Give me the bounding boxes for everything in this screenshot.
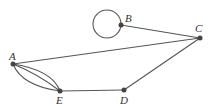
edge-a-e-1 (13, 64, 60, 91)
node-c (198, 36, 203, 41)
node-b (119, 23, 124, 28)
edge-a-e-3 (13, 64, 60, 91)
label-e: E (55, 94, 63, 106)
node-e (58, 89, 63, 94)
loop-b (93, 10, 121, 38)
edge-d-e (60, 90, 124, 91)
edge-b-c (121, 25, 200, 38)
node-a (11, 62, 16, 67)
edge-a-e-2 (13, 64, 60, 91)
label-a: A (8, 50, 16, 62)
node-d (122, 88, 127, 93)
edge-c-d (124, 38, 200, 90)
label-b: B (125, 12, 132, 24)
label-d: D (119, 94, 128, 106)
graph-diagram: A B C D E (0, 0, 211, 106)
graph-svg: A B C D E (0, 0, 211, 106)
label-c: C (195, 22, 203, 34)
edge-a-c (13, 38, 200, 64)
